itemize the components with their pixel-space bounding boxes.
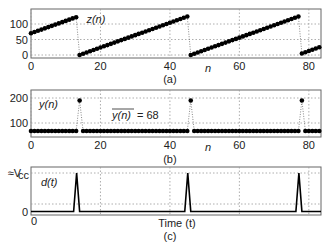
x-tick-label: 20	[94, 60, 106, 72]
chart-figure: 050100020406080z(n)n(a)100200020406080y(…	[0, 0, 329, 250]
data-point	[317, 45, 322, 50]
data-point	[185, 129, 190, 134]
x-tick-label-zero: 0	[31, 215, 37, 227]
x-tick-label: 60	[233, 60, 245, 72]
data-point	[74, 129, 79, 134]
data-point	[185, 14, 190, 19]
x-tick-label: 60	[233, 139, 245, 151]
x-tick-label: 40	[164, 60, 176, 72]
y-tick-label-zero: 0	[22, 206, 28, 218]
series-label: y(n)	[38, 98, 58, 110]
x-axis-label: n	[205, 62, 211, 74]
panel-caption: (a)	[163, 73, 176, 85]
x-tick-label: 20	[94, 139, 106, 151]
x-tick-label: 0	[28, 139, 34, 151]
y-tick-label: 200	[10, 92, 28, 104]
series-label: d(t)	[41, 176, 58, 188]
panel-caption: (c)	[164, 230, 177, 242]
data-point	[317, 129, 322, 134]
x-tick-label: 80	[303, 60, 315, 72]
mean-value: = 68	[137, 109, 159, 121]
data-point	[77, 98, 82, 103]
x-tick-label: 80	[303, 139, 315, 151]
panel-b: 100200020406080y(n)y(n)= 68n(b)	[10, 90, 322, 165]
mean-symbol: y(n)	[111, 109, 131, 121]
y-tick-label: 100	[10, 117, 28, 129]
series-label: z(n)	[85, 13, 105, 25]
panel-caption: (b)	[163, 153, 176, 165]
y-tick-label-vcc-sub: cc	[18, 169, 30, 181]
data-point	[296, 129, 301, 134]
x-tick-label: 0	[28, 60, 34, 72]
x-axis-label: Time (t)	[158, 217, 195, 229]
data-point	[74, 15, 79, 20]
data-point	[296, 14, 301, 19]
x-tick-label: 40	[164, 139, 176, 151]
panel-a: 050100020406080z(n)n(a)	[10, 9, 322, 85]
x-axis-label: n	[205, 141, 211, 153]
y-tick-label: 100	[10, 18, 28, 30]
data-point	[300, 98, 305, 103]
y-tick-label: 50	[16, 34, 28, 46]
data-point	[188, 98, 193, 103]
panel-c: ≈Vcc00d(t)Time (t)(c)	[8, 167, 321, 242]
